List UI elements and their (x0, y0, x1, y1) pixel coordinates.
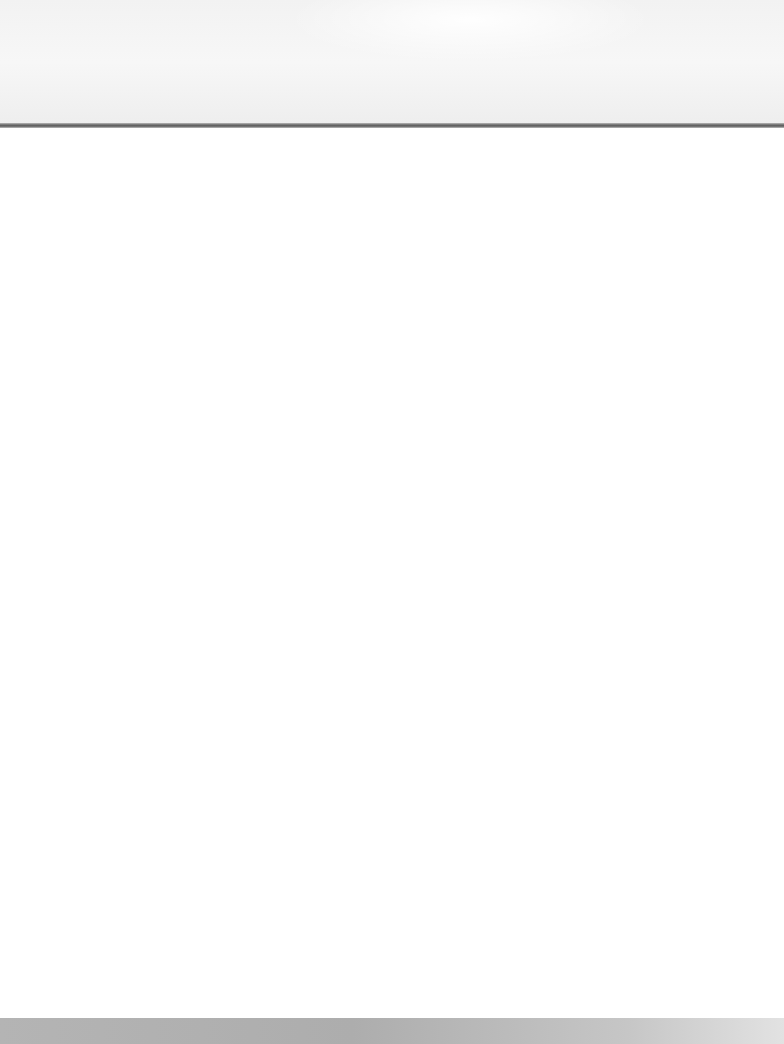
bottom-edge-bar (0, 1018, 784, 1044)
blank-paper-page (0, 128, 784, 1018)
notepad-header-band (0, 0, 784, 124)
